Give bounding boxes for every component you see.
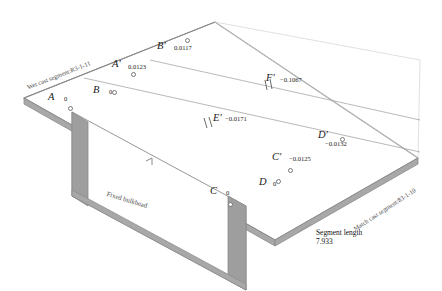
point-label-B: B — [93, 85, 99, 96]
point-value-A: 0 — [64, 96, 67, 103]
segment-length-value: 7.933 — [316, 237, 362, 246]
point-marker-B — [112, 90, 117, 95]
point-label-Bp: B′ — [157, 41, 166, 52]
diagram-canvas: Wet cast segment:R3-1-11 Match cast segm… — [0, 0, 442, 291]
point-value-Ap: 0.0123 — [128, 64, 146, 71]
point-value-C: 0 — [226, 190, 229, 197]
point-marker-Cp — [288, 168, 293, 173]
point-label-Cp: C′ — [272, 152, 281, 163]
point-label-A: A — [48, 92, 54, 103]
point-label-D: D — [259, 177, 267, 188]
point-label-Fp: F′ — [266, 73, 275, 84]
point-marker-Dp — [340, 137, 345, 142]
segment-length-annotation: Segment length 7.933 — [316, 228, 362, 247]
joint-guide-line-lower — [418, 60, 420, 158]
point-value-Fp: −0.1067 — [280, 77, 302, 84]
point-marker-D — [276, 179, 281, 184]
point-value-Dp: −0.0132 — [325, 141, 347, 148]
point-value-Cp: −0.0125 — [289, 156, 311, 163]
point-marker-Bp — [185, 38, 190, 43]
point-marker-Ap — [131, 72, 136, 77]
point-label-Dp: D′ — [318, 130, 328, 141]
point-label-Ep: E′ — [213, 113, 222, 124]
point-marker-A — [68, 106, 73, 111]
point-value-Ep: −0.0171 — [225, 116, 247, 123]
point-marker-C — [228, 202, 233, 207]
point-value-Bp: 0.0117 — [174, 45, 192, 52]
point-label-C: C — [210, 186, 217, 197]
segment-length-label: Segment length — [316, 228, 362, 237]
point-label-Ap: A′ — [112, 59, 121, 70]
segment-geometry — [0, 0, 442, 291]
